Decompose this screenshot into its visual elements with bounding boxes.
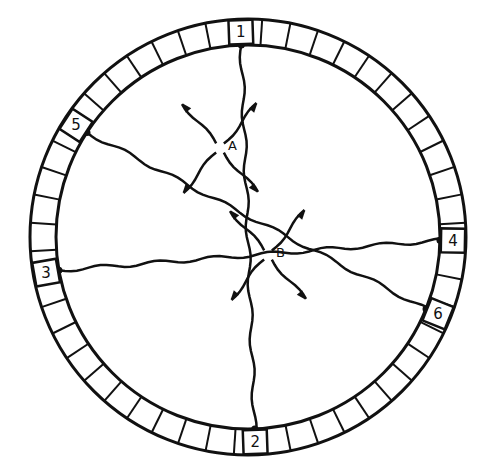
detector-labels: 123456 xyxy=(32,20,465,455)
detector-1: 1 xyxy=(228,20,253,45)
source-label: A xyxy=(228,138,237,153)
detector-label: 5 xyxy=(71,116,81,134)
detector-label: 3 xyxy=(41,264,51,282)
detector-5: 5 xyxy=(59,109,92,142)
detector-3: 3 xyxy=(32,259,60,287)
detector-label: 2 xyxy=(250,433,260,451)
source-label: B xyxy=(276,245,285,260)
source-B: B xyxy=(230,210,306,300)
ray-5-6 xyxy=(83,129,429,312)
detector-4: 4 xyxy=(441,228,465,252)
ring-detector-diagram: 123456 AB xyxy=(0,0,492,470)
detector-label: 4 xyxy=(448,232,458,250)
detector-label: 6 xyxy=(433,305,443,323)
detector-label: 1 xyxy=(236,23,246,41)
detector-2: 2 xyxy=(243,429,268,454)
